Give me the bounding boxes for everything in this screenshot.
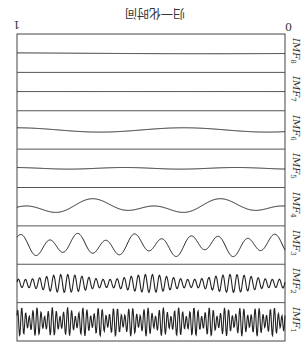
imf-label-7: IMF7 [287, 76, 303, 102]
imf-label-4: IMF4 [287, 192, 303, 218]
imf-label-5: IMF5 [287, 153, 303, 179]
imf-waveform-2 [17, 275, 285, 293]
imf-label-6: IMF6 [287, 115, 303, 141]
imf-label-1: IMF1 [287, 307, 303, 333]
imf-waveform-6 [17, 128, 285, 132]
imf-decomposition-chart [0, 0, 304, 347]
imf-waveform-1 [17, 307, 285, 336]
imf-waveform-5 [17, 168, 285, 170]
imf-label-8: IMF8 [287, 38, 303, 64]
imf-waveform-4 [17, 199, 285, 213]
imf-label-2: IMF2 [287, 268, 303, 294]
imf-label-3: IMF3 [287, 230, 303, 256]
imf-waveform-3 [17, 233, 285, 256]
imf-waveform-8 [17, 53, 285, 54]
